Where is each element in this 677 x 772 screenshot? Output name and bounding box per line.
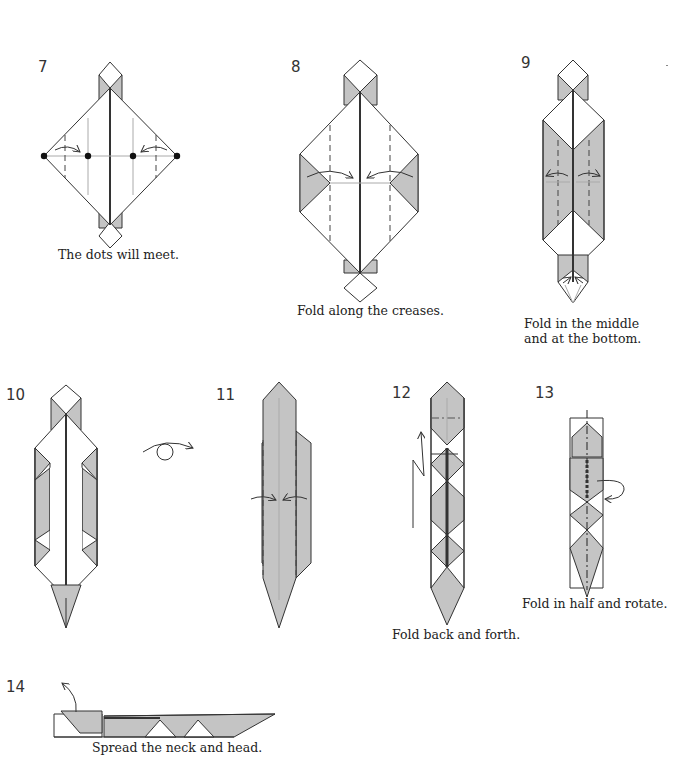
step-10-figure — [35, 385, 193, 628]
step-7-figure — [41, 62, 180, 248]
dot-left-inner — [85, 153, 91, 159]
dot-right-outer — [174, 153, 180, 159]
pleat-arrow-icon — [413, 432, 424, 528]
step-12-figure — [413, 382, 464, 625]
dot-right-inner — [130, 153, 136, 159]
step-13-figure — [570, 410, 624, 597]
dot-left-outer — [41, 153, 47, 159]
step-14-figure — [54, 683, 275, 737]
step-9-figure — [543, 60, 604, 303]
origami-diagram — [0, 0, 677, 772]
spread-arrow-icon — [62, 683, 76, 712]
turn-over-circle-icon — [157, 444, 173, 460]
step-11-figure — [251, 382, 311, 628]
step-8-figure — [300, 60, 418, 302]
